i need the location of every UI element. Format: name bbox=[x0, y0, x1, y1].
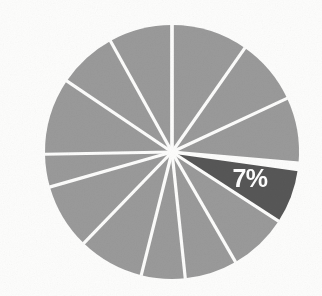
pie-chart-svg: 7% bbox=[0, 0, 322, 296]
pie-chart-figure: 7% bbox=[0, 0, 322, 296]
paper-grain-overlay bbox=[0, 0, 322, 296]
